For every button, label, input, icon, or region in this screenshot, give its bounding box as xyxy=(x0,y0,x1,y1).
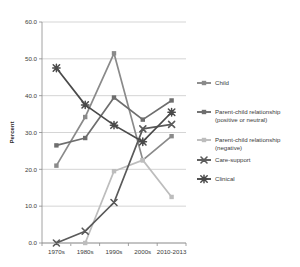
x-tick-label: 1980s xyxy=(77,248,94,255)
data-point-marker xyxy=(53,64,60,71)
data-point-marker xyxy=(202,138,206,142)
data-point-marker xyxy=(112,95,116,99)
data-point-marker xyxy=(168,109,175,116)
legend-label: (negative) xyxy=(215,144,242,151)
series-line xyxy=(56,68,171,142)
data-point-marker xyxy=(200,175,207,182)
y-axis xyxy=(39,22,42,243)
x-tick-label: 2000s xyxy=(134,248,151,255)
legend-item-2[interactable]: Parent-child relationship(positive or ne… xyxy=(197,108,281,123)
series-line xyxy=(56,53,171,165)
data-point-marker xyxy=(110,121,117,128)
y-axis-title: Percent xyxy=(9,121,15,143)
x-tick-label: 1970s xyxy=(48,248,65,255)
data-point-marker xyxy=(202,81,206,85)
y-tick-label: 60.0 xyxy=(25,18,38,25)
series-line xyxy=(56,124,171,243)
legend-item-5[interactable]: Clinical xyxy=(197,175,235,182)
y-tick-label: 30.0 xyxy=(25,129,38,136)
data-point-marker xyxy=(112,169,116,173)
y-tick-label: 10.0 xyxy=(25,202,38,209)
chart-legend: ChildParent-child relationship(positive … xyxy=(197,79,281,182)
data-point-marker xyxy=(139,138,146,145)
legend-label: (positive or neutral) xyxy=(215,116,267,123)
data-point-marker xyxy=(169,195,173,199)
y-tick-label: 0.0 xyxy=(28,239,37,246)
data-point-marker xyxy=(54,143,58,147)
x-tick-label: 2010-2013 xyxy=(157,248,187,255)
line-chart: 0.010.020.030.040.050.060.0 1970s1980s19… xyxy=(0,0,300,267)
y-axis-title: Percent xyxy=(9,121,15,143)
data-point-marker xyxy=(141,158,145,162)
data-point-marker xyxy=(83,241,87,245)
legend-item-4[interactable]: Care-support xyxy=(197,156,251,163)
data-point-marker xyxy=(141,117,145,121)
data-point-marker xyxy=(83,115,87,119)
legend-label: Parent-child relationship xyxy=(215,108,281,115)
chart-canvas: 0.010.020.030.040.050.060.0 1970s1980s19… xyxy=(0,0,300,267)
data-point-marker xyxy=(82,101,89,108)
y-tick-label: 50.0 xyxy=(25,55,38,62)
series-1 xyxy=(54,51,174,168)
legend-label: Clinical xyxy=(215,175,235,182)
series-5 xyxy=(53,64,176,145)
data-point-marker xyxy=(112,51,116,55)
y-tick-label: 40.0 xyxy=(25,92,38,99)
y-tick-labels: 0.010.020.030.040.050.060.0 xyxy=(25,18,38,246)
data-point-marker xyxy=(202,110,206,114)
y-tick-label: 20.0 xyxy=(25,166,38,173)
legend-item-1[interactable]: Child xyxy=(197,79,229,86)
legend-label: Care-support xyxy=(215,156,251,163)
data-point-marker xyxy=(54,163,58,167)
legend-item-3[interactable]: Parent-child relationship(negative) xyxy=(197,136,281,151)
legend-label: Parent-child relationship xyxy=(215,136,281,143)
data-point-marker xyxy=(169,134,173,138)
x-tick-labels: 1970s1980s1990s2000s2010-2013 xyxy=(48,248,187,255)
plot-series xyxy=(53,51,176,246)
x-tick-label: 1990s xyxy=(106,248,123,255)
data-point-marker xyxy=(83,136,87,140)
legend-label: Child xyxy=(215,79,229,86)
data-point-marker xyxy=(169,98,173,102)
